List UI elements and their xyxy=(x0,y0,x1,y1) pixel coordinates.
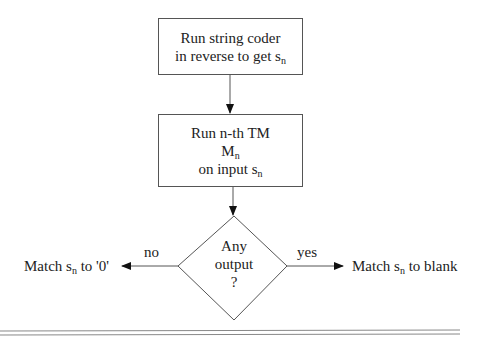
rule-top xyxy=(0,330,460,331)
yes-result: Match sn to blank xyxy=(352,257,457,275)
run-tm-line3: on input sn xyxy=(198,160,262,178)
yes-label: yes xyxy=(297,243,317,261)
decode-box: Run string coder in reverse to get sn xyxy=(158,18,303,75)
no-result: Match sn to '0' xyxy=(24,257,109,275)
decision-text: Any output ? xyxy=(198,237,270,291)
no-label: no xyxy=(144,243,159,261)
decision-line1: Any xyxy=(198,237,270,255)
decision-line3: ? xyxy=(198,273,270,291)
decode-line2: in reverse to get sn xyxy=(175,47,286,65)
decode-line1: Run string coder xyxy=(181,29,281,47)
run-tm-box: Run n-th TM Mn on input sn xyxy=(158,114,303,187)
decision-line2: output xyxy=(198,255,270,273)
rule-bottom xyxy=(0,334,460,335)
run-tm-line2: Mn xyxy=(221,142,239,160)
run-tm-line1: Run n-th TM xyxy=(191,124,270,142)
